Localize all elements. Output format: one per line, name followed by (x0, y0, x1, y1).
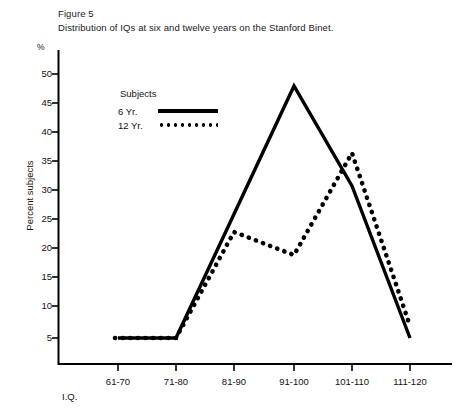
series-line-6yr (118, 86, 410, 338)
series-line-12yr (115, 153, 410, 338)
figure-container: Figure 5 Distribution of IQs at six and … (0, 0, 464, 413)
x-tick-marks (118, 364, 410, 371)
plot-area (0, 0, 464, 413)
